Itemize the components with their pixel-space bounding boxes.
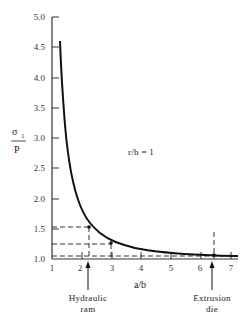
reference-lines [52,227,236,259]
extrusion-die-label-line2: die [206,304,218,314]
y-tick-label: 2.5 [34,163,46,173]
x-tick-label: 2 [78,263,83,273]
y-tick-label: 5.0 [34,12,46,22]
marked-points [87,225,216,257]
x-tick-label: 5 [169,263,174,273]
extrusion-die-label-line1: Extrusion [193,293,231,303]
x-tick-label: 3 [110,263,115,273]
y-tick-label: 4.0 [34,73,46,83]
arrow-up-icon [86,261,91,268]
axes [52,17,238,259]
y-tick-label: 2.0 [34,194,46,204]
y-axis-label: σ 1 P [11,126,26,155]
y-tick-labels: 1.0 1.5 2.0 2.5 3.0 3.5 4.0 4.5 5.0 [34,12,46,264]
x-tick-label: 4 [139,263,144,273]
hydraulic-ram-annotation: Hydraulic ram [69,261,108,314]
y-tick-label: 3.5 [34,103,46,113]
curve-parameter-label: r/b = 1 [128,147,154,157]
y-tick-label: 3.0 [34,133,46,143]
hydraulic-ram-label-line2: ram [81,304,96,314]
arrow-up-icon [210,261,215,268]
y-tick-label: 1.5 [34,224,46,234]
hydraulic-ram-label-line1: Hydraulic [69,293,108,303]
x-tick-label: 6 [198,263,203,273]
x-tick-label: 1 [50,263,55,273]
chart-canvas: 1.0 1.5 2.0 2.5 3.0 3.5 4.0 4.5 5.0 1 2 … [0,0,247,318]
x-tick-labels: 1 2 3 4 5 6 7 [50,263,234,273]
x-tick-label: 7 [229,263,234,273]
y-axis-label-denominator: P [14,144,20,155]
y-axis-label-numerator: σ [12,126,18,137]
y-tick-label: 4.5 [34,42,46,52]
x-axis-label: a/b [134,279,146,290]
y-axis-label-subscript: 1 [21,132,25,140]
y-tick-label: 1.0 [34,254,46,264]
y-ticks [52,17,59,229]
